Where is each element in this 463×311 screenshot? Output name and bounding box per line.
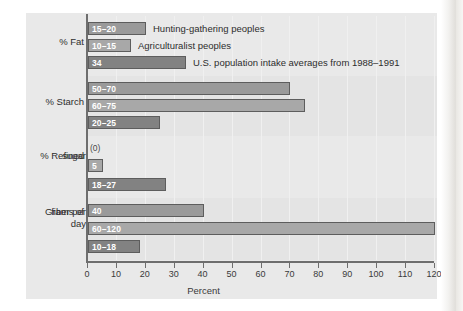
x-tick-90: [347, 263, 348, 268]
x-tick-label-110: 110: [398, 269, 412, 279]
bar-sugar-us-population[interactable]: 18–27: [88, 178, 166, 191]
bar-label-fiber-hunting: 40: [92, 205, 102, 218]
page-edge-highlight: [456, 0, 463, 311]
page-edge-shadow: [441, 0, 463, 311]
x-tick-110: [405, 263, 406, 268]
x-axis-title-text: Percent: [187, 285, 220, 296]
category-label-fiber: Grams of fiber per day: [26, 206, 84, 229]
bar-fat-us-population[interactable]: 34: [88, 56, 186, 69]
bar-label-sugar-agriculturalist: 5: [92, 160, 97, 173]
x-tick-label-50: 50: [227, 269, 237, 279]
x-tick-80: [318, 263, 319, 268]
category-label-fiber-line2: fiber per: [26, 206, 86, 218]
category-label-fiber-line3: day: [26, 218, 86, 230]
x-tick-60: [261, 263, 262, 268]
category-label-starch-text: % Starch: [24, 96, 84, 108]
bar-label-fat-hunting: 15–20: [92, 23, 116, 36]
x-tick-label-10: 10: [111, 269, 121, 279]
bar-label-fat-agriculturalist: 10–15: [92, 40, 116, 53]
x-tick-label-100: 100: [369, 269, 384, 279]
legend-label-us-population: U.S. population intake averages from 198…: [193, 56, 400, 69]
legend-label-agriculturalist: Agriculturalist peoples: [138, 39, 231, 52]
bar-label-fiber-us-population: 10–18: [92, 241, 116, 254]
bar-label-sugar-us-population: 18–27: [92, 179, 116, 192]
category-label-refined-sugar: % Refined sugar: [26, 150, 84, 162]
bar-fiber-us-population[interactable]: 10–18: [88, 240, 140, 253]
category-label-refined-sugar-line2: sugar: [26, 150, 86, 162]
bar-fiber-agriculturalist[interactable]: 60–120: [88, 222, 435, 235]
chart-figure: 0 10 20 30 40 50 60 70 80 90 100 110 120…: [0, 0, 463, 311]
bar-sugar-agriculturalist[interactable]: 5: [88, 159, 103, 172]
x-tick-40: [203, 263, 204, 268]
bar-label-starch-agriculturalist: 60–75: [92, 100, 116, 113]
x-axis-title: Percent: [0, 285, 463, 296]
x-tick-label-60: 60: [255, 269, 265, 279]
x-tick-10: [116, 263, 117, 268]
x-tick-70: [289, 263, 290, 268]
x-tick-30: [174, 263, 175, 268]
x-tick-label-0: 0: [84, 269, 89, 279]
x-tick-label-80: 80: [313, 269, 323, 279]
bar-label-starch-hunting: 50–70: [92, 83, 116, 96]
bar-fiber-hunting[interactable]: 40: [88, 204, 204, 217]
bar-fat-hunting[interactable]: 15–20: [88, 22, 146, 35]
bar-starch-us-population[interactable]: 20–25: [88, 116, 160, 129]
x-tick-100: [376, 263, 377, 268]
x-tick-label-20: 20: [140, 269, 150, 279]
legend-label-hunting: Hunting-gathering peoples: [153, 22, 264, 35]
x-tick-120: [434, 263, 435, 268]
x-tick-20: [145, 263, 146, 268]
bar-label-fiber-agriculturalist: 60–120: [92, 223, 121, 236]
bar-label-starch-us-population: 20–25: [92, 117, 116, 130]
x-tick-label-70: 70: [284, 269, 294, 279]
x-tick-label-120: 120: [426, 269, 441, 279]
x-tick-label-30: 30: [169, 269, 179, 279]
x-tick-0: [87, 263, 88, 268]
x-tick-50: [232, 263, 233, 268]
x-tick-label-40: 40: [198, 269, 208, 279]
x-tick-label-90: 90: [342, 269, 352, 279]
category-label-fat-text: % Fat: [24, 36, 84, 48]
bar-starch-agriculturalist[interactable]: 60–75: [88, 99, 305, 112]
bar-fat-agriculturalist[interactable]: 10–15: [88, 39, 131, 52]
bar-label-fat-us-population: 34: [92, 57, 102, 70]
bar-label-sugar-hunting-zero: (0): [90, 142, 100, 155]
bar-starch-hunting[interactable]: 50–70: [88, 82, 290, 95]
